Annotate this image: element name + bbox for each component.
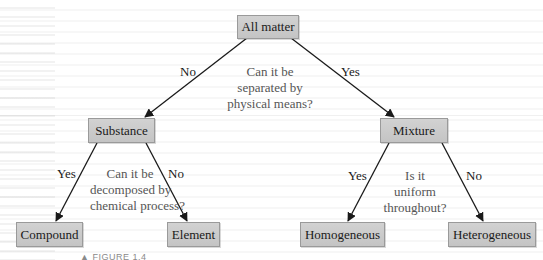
edge-label-root-no: No (180, 64, 196, 80)
edge-label-root-yes: Yes (341, 64, 360, 80)
question-substance-line-2: decomposed by (90, 182, 170, 198)
edge-label-mixture-yes: Yes (348, 168, 367, 184)
question-mixture-line-2: uniform (375, 184, 455, 200)
node-heterogeneous: Heterogeneous (448, 222, 536, 247)
edge-label-mixture-no: No (466, 168, 482, 184)
question-root-line-1: Can it be (220, 64, 320, 80)
node-substance: Substance (88, 118, 155, 143)
question-root-line-2: separated by (220, 80, 320, 96)
node-homogeneous: Homogeneous (300, 222, 385, 247)
node-compound: Compound (16, 222, 83, 247)
node-element: Element (167, 222, 220, 247)
question-substance-line-1: Can it be (90, 166, 170, 182)
question-substance: Can it be decomposed by chemical process… (70, 166, 170, 214)
question-mixture-line-3: throughout? (375, 200, 455, 216)
figure-caption: ▲ FIGURE 1.4 (80, 252, 146, 260)
edge-label-substance-no: No (168, 166, 184, 182)
question-root: Can it be separated by physical means? (220, 64, 320, 112)
question-mixture: Is it uniform throughout? (375, 168, 455, 216)
node-mixture: Mixture (380, 118, 448, 143)
tree-edges (0, 0, 543, 260)
question-mixture-line-1: Is it (375, 168, 455, 184)
question-substance-line-3: chemical process? (90, 198, 170, 214)
node-all-matter: All matter (237, 15, 299, 39)
question-root-line-3: physical means? (220, 96, 320, 112)
